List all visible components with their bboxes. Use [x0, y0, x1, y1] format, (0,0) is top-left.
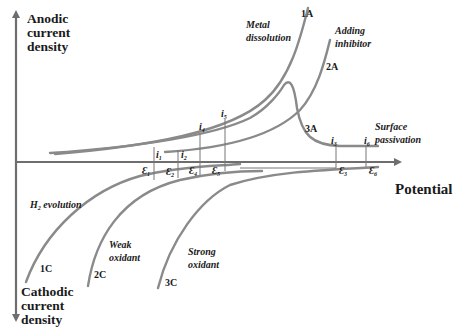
label-i4: i4 [199, 121, 205, 133]
label-i6: i6 [364, 135, 370, 147]
curve-2c-weak-oxidant [88, 171, 262, 286]
curve-3a-surface-passivation [50, 82, 378, 153]
annotation-strong-oxidant: Strong oxidant [188, 246, 220, 270]
evans-diagram: Anodic current density Cathodic current … [0, 0, 463, 333]
label-e2: Ɛ2 [166, 166, 174, 178]
curve-id-1c: 1C [40, 263, 52, 274]
x-axis-label: Potential [395, 181, 453, 197]
annotation-weak-oxidant: Weak oxidant [109, 239, 141, 263]
annotation-adding-inhibitor: Adding inhibitor [334, 25, 371, 49]
label-i1: i1 [156, 149, 162, 161]
curve-id-3c: 3C [165, 277, 177, 288]
curve-id-3a: 3A [305, 123, 318, 134]
annotation-h2-evolution: H2 evolution [29, 199, 82, 211]
curve-id-2a: 2A [326, 61, 339, 72]
label-e1: Ɛ1 [142, 165, 150, 177]
curve-id-1a: 1A [301, 8, 314, 19]
label-i3: i3 [331, 135, 337, 147]
label-e3: Ɛ3 [339, 165, 347, 177]
label-i5: i5 [221, 108, 227, 120]
annotation-surface-passivation: Surface passivation [374, 121, 422, 145]
annotation-metal-dissolution: Metal dissolution [245, 19, 291, 43]
y-axis-top-label: Anodic current density [27, 11, 74, 54]
y-axis-bottom-label: Cathodic current density [21, 284, 77, 327]
label-e5: Ɛ5 [212, 165, 220, 177]
curve-id-2c: 2C [94, 269, 106, 280]
